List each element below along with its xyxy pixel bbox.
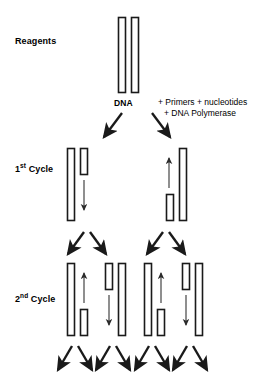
dna-strand-long — [119, 264, 126, 336]
annotation-additions-line1: + Primers + nucleotides — [158, 97, 247, 107]
branch-arrow — [58, 346, 72, 370]
dna-strand-long — [119, 18, 126, 93]
second-cycle-word: Cycle — [28, 294, 55, 304]
branch-arrow — [147, 232, 163, 254]
dna-strand-long — [132, 18, 139, 93]
dna-strand-short — [183, 264, 190, 290]
branch-arrow — [116, 346, 130, 370]
annotation-additions: + Primers + nucleotides + DNA Polymerase — [158, 97, 247, 119]
dna-strand-short — [106, 264, 113, 290]
branch-arrow — [68, 232, 84, 254]
first-cycle-word: Cycle — [26, 164, 53, 174]
dna-strand-long — [68, 264, 75, 336]
branch-arrow — [104, 113, 122, 137]
branch-arrow — [135, 346, 149, 370]
branch-arrow — [173, 346, 187, 370]
dna-strand-short — [167, 195, 174, 221]
dna-strand-long — [180, 149, 187, 221]
annotation-dna: DNA — [114, 98, 133, 109]
dna-strand-long — [68, 149, 75, 221]
branch-arrow — [96, 346, 110, 370]
dna-strand-long — [145, 264, 152, 336]
dna-strand-short — [81, 149, 88, 175]
branch-arrow — [193, 346, 207, 370]
branch-arrow — [155, 346, 169, 370]
dna-strand-long — [196, 264, 203, 336]
branch-arrow — [169, 232, 185, 254]
branch-arrow — [90, 232, 106, 254]
strand-and-arrow-layer — [58, 18, 207, 371]
stage-label-second-cycle: 2nd Cycle — [15, 294, 55, 305]
branch-arrow — [78, 346, 92, 370]
dna-strand-short — [158, 310, 165, 336]
stage-label-reagents: Reagents — [15, 36, 56, 47]
pcr-diagram: Reagents 1st Cycle 2nd Cycle DNA + Prime… — [0, 0, 273, 384]
annotation-additions-line2: + DNA Polymerase — [158, 108, 247, 119]
diagram-canvas — [0, 0, 273, 384]
stage-label-first-cycle: 1st Cycle — [15, 164, 53, 175]
dna-strand-short — [81, 310, 88, 336]
